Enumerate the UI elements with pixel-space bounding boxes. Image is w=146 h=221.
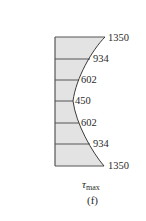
figure-label: (f)	[87, 195, 98, 206]
value-label: 934	[93, 54, 109, 65]
value-label: 602	[81, 75, 97, 86]
value-label-center: 450	[75, 96, 91, 107]
value-label: 934	[93, 139, 109, 150]
subscript-max: max	[86, 183, 100, 192]
value-label-top: 1350	[108, 33, 129, 44]
quantity-symbol: τmax	[82, 179, 100, 192]
value-label-bottom: 1350	[108, 161, 129, 172]
shear-stress-distribution-diagram: 1350 934 602 450 602 934 1350 τmax (f)	[0, 0, 146, 221]
value-label: 602	[81, 118, 97, 129]
